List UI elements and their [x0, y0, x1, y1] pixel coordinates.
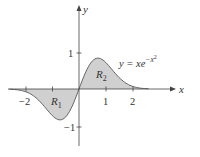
function-plot: x y −2 1 2 1 −1 R1 R2 y = xe−x2 [0, 0, 200, 157]
x-tick-label: 2 [130, 96, 135, 107]
y-tick-label: −1 [64, 122, 75, 133]
x-axis-label: x [178, 83, 184, 95]
function-label: y = xe−x2 [118, 54, 157, 69]
y-tick-label: 1 [68, 48, 73, 59]
x-tick-label: 1 [103, 96, 108, 107]
x-axis-arrow-icon [170, 87, 176, 92]
x-tick-label: −2 [19, 96, 30, 107]
y-axis-arrow-icon [77, 5, 82, 11]
y-axis-label: y [82, 3, 88, 15]
